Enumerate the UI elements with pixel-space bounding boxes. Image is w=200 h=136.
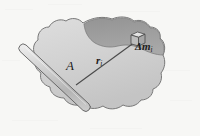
radius-vector-subscript: i <box>100 59 102 68</box>
radius-vector-label: ri <box>96 55 102 67</box>
mass-element-subscript: i <box>150 45 152 54</box>
mass-element-symbol: Δm <box>135 40 150 52</box>
mass-element-label: Δmi <box>135 41 153 53</box>
axis-label: A <box>66 59 74 72</box>
rigid-body-diagram-svg <box>0 0 200 136</box>
physics-figure: A ri Δmi <box>0 0 200 136</box>
